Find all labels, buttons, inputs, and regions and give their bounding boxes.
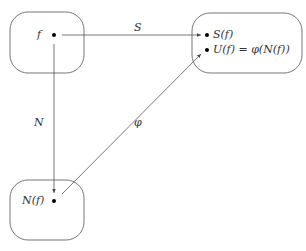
node-f-box	[10, 12, 84, 73]
node-nf-label: N(f)	[22, 195, 44, 207]
output-uf-label: U(f) = φ(N(f))	[213, 44, 290, 56]
dot-sf	[205, 33, 209, 37]
node-nf-box	[10, 180, 84, 240]
dot-nf	[52, 199, 56, 203]
dot-uf	[205, 48, 209, 52]
edge-phi-label: φ	[134, 117, 142, 129]
edge-phi-arrow	[62, 54, 201, 194]
output-sf-label: S(f)	[213, 29, 233, 41]
edge-S-label: S	[134, 22, 142, 34]
edge-N-label: N	[34, 117, 44, 129]
node-f-label: f	[37, 29, 41, 41]
diagram-canvas	[0, 0, 306, 251]
dot-f	[52, 33, 56, 37]
